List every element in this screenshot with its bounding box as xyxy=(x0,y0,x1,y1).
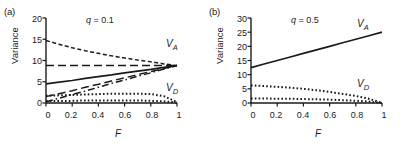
figure-container: (a) Variance F q = 0.1 VA VD 20 15 10 5 … xyxy=(0,0,409,148)
chart-panel-a: (a) Variance F q = 0.1 VA VD 20 15 10 5 … xyxy=(0,0,205,148)
panel-b-plot-svg xyxy=(205,0,409,148)
panel-a-plot-svg xyxy=(0,0,205,148)
chart-panel-b: (b) Variance F q = 0.5 VA VD 30 25 20 15… xyxy=(205,0,409,148)
